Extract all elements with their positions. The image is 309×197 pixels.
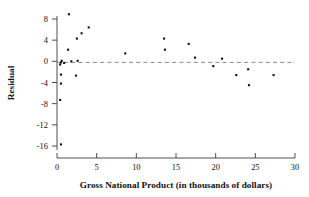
y-tick-label: -4: [41, 79, 49, 88]
x-tick-label: 25: [251, 163, 259, 172]
data-point: [273, 74, 275, 76]
data-point: [221, 58, 223, 60]
y-tick-label: -16: [37, 142, 48, 151]
data-point: [61, 60, 63, 62]
data-point: [59, 99, 61, 101]
x-tick-label: 5: [95, 163, 99, 172]
x-tick-label: 10: [132, 163, 140, 172]
data-point: [164, 49, 166, 51]
data-point: [76, 38, 78, 40]
data-point: [63, 62, 65, 64]
data-point: [60, 83, 62, 85]
data-point: [212, 65, 214, 67]
data-point: [248, 84, 250, 86]
scatter-plot-canvas: 840-4-8-12-16 051015202530 Gross Nationa…: [0, 0, 309, 197]
plot-background: [0, 0, 309, 197]
data-point: [163, 38, 165, 40]
data-point: [88, 26, 90, 28]
x-tick-label: 20: [211, 163, 219, 172]
data-point: [81, 32, 83, 34]
y-tick-label: -12: [37, 121, 48, 130]
data-point: [75, 75, 77, 77]
data-point: [77, 60, 79, 62]
y-axis-title: Residual: [6, 65, 16, 100]
x-tick-label: 0: [55, 163, 59, 172]
data-point: [60, 143, 62, 145]
data-point: [68, 13, 70, 15]
data-point: [60, 74, 62, 76]
y-tick-label: 8: [44, 15, 48, 24]
data-point: [247, 68, 249, 70]
data-point: [188, 43, 190, 45]
data-point: [59, 63, 61, 65]
x-tick-label: 30: [291, 163, 299, 172]
data-point: [124, 52, 126, 54]
data-point: [235, 74, 237, 76]
data-point: [67, 49, 69, 51]
x-tick-label: 15: [172, 163, 180, 172]
residual-plot-figure: 840-4-8-12-16 051015202530 Gross Nationa…: [0, 0, 309, 197]
data-point: [70, 60, 72, 62]
data-point: [194, 57, 196, 59]
y-tick-label: -8: [41, 100, 48, 109]
x-axis-title: Gross National Product (in thousands of …: [80, 180, 272, 190]
y-tick-label: 0: [44, 57, 48, 66]
